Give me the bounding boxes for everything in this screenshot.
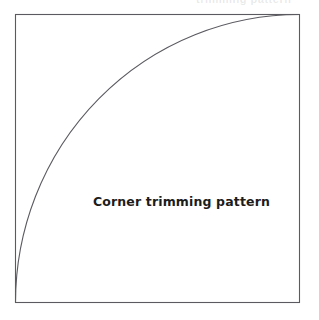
pattern-caption: Corner trimming pattern [0, 194, 319, 209]
pattern-square-fill [16, 15, 300, 303]
corner-trimming-pattern-drawing [0, 0, 319, 320]
figure-canvas: trimming pattern Corner trimming pattern [0, 0, 319, 320]
pattern-caption-text: Corner trimming pattern [93, 194, 270, 209]
